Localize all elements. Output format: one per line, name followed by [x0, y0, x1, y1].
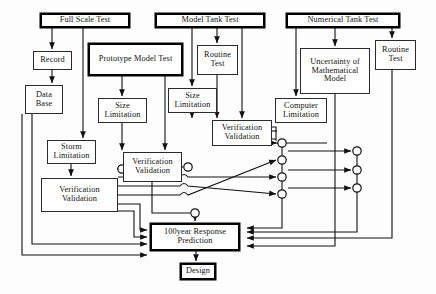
- node-label: Design: [184, 267, 212, 276]
- junction-i: [353, 184, 361, 192]
- node-label: Routine Test: [376, 46, 415, 64]
- node-label: Size Limitation: [99, 102, 146, 120]
- node-full-scale-test[interactable]: Full Scale Test: [40, 13, 130, 28]
- junction-j: [191, 209, 199, 217]
- node-label: Model Tank Test: [179, 16, 240, 25]
- node-model-tank-test[interactable]: Model Tank Test: [155, 13, 265, 28]
- node-label: Routine Test: [198, 51, 237, 69]
- junction-f: [278, 190, 286, 198]
- node-design[interactable]: Design: [180, 263, 216, 280]
- node-data-base[interactable]: Data Base: [25, 85, 63, 114]
- node-label: Verification Validation: [213, 124, 271, 142]
- node-label: Size Limitation: [169, 92, 216, 110]
- junction-e: [278, 173, 286, 181]
- node-routine-test-right[interactable]: Routine Test: [375, 40, 416, 70]
- node-routine-test-middle[interactable]: Routine Test: [197, 45, 238, 75]
- node-numerical-tank-test[interactable]: Numerical Tank Test: [286, 13, 400, 28]
- node-label: Numerical Tank Test: [306, 16, 381, 25]
- flowchart-diagram: Full Scale TestModel Tank TestNumerical …: [0, 0, 436, 294]
- node-label: Uncertainty of Mathematical Model: [301, 58, 369, 84]
- node-label: Verification Validation: [42, 186, 117, 204]
- junction-b: [278, 139, 286, 147]
- node-verification-validation-right[interactable]: Verification Validation: [212, 120, 272, 146]
- node-computer-limitation[interactable]: Computer Limitation: [275, 98, 327, 123]
- node-label: Prototype Model Test: [97, 55, 175, 64]
- node-size-limitation-right[interactable]: Size Limitation: [168, 88, 217, 113]
- node-label: Full Scale Test: [58, 16, 113, 25]
- junction-g: [353, 147, 361, 155]
- node-verification-validation-middle[interactable]: Verification Validation: [123, 152, 182, 182]
- node-uncertainty-math-model[interactable]: Uncertainty of Mathematical Model: [300, 48, 370, 94]
- junction-d: [278, 156, 286, 164]
- junction-c: [184, 163, 192, 171]
- node-label: 100year Response Prediction: [152, 228, 238, 246]
- node-record[interactable]: Record: [33, 51, 72, 70]
- node-verification-validation-left[interactable]: Verification Validation: [41, 178, 118, 212]
- node-size-limitation-left[interactable]: Size Limitation: [98, 98, 147, 123]
- junction-h: [353, 166, 361, 174]
- node-label: Data Base: [26, 91, 62, 109]
- node-label: Storm Limitation: [48, 143, 95, 161]
- node-response-prediction[interactable]: 100year Response Prediction: [150, 223, 240, 251]
- node-label: Record: [38, 56, 67, 65]
- node-storm-limitation[interactable]: Storm Limitation: [47, 140, 96, 164]
- node-label: Verification Validation: [124, 158, 181, 176]
- node-prototype-model-test[interactable]: Prototype Model Test: [88, 43, 183, 76]
- node-label: Computer Limitation: [276, 102, 326, 120]
